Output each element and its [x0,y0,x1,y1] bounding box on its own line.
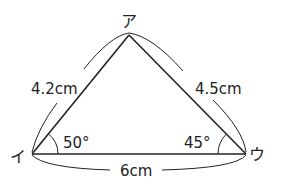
vertex-label-a: ア [121,12,137,31]
side-length-bottom: 6cm [120,162,152,180]
side-length-right: 4.5cm [195,80,242,98]
arc-bottom-right [162,155,246,170]
angle-arc-right [218,134,226,154]
angle-label-right: 45° [184,134,211,152]
arc-bottom-left [32,155,110,170]
vertex-label-i: イ [10,147,26,166]
angle-arc-left [48,134,58,154]
vertex-label-u: ウ [249,145,265,164]
arc-right-upper [129,33,183,71]
angle-label-left: 50° [63,134,90,152]
side-length-left: 4.2cm [31,80,78,98]
triangle-diagram: ア イ ウ 4.2cm 4.5cm 6cm 50° 45° [0,0,283,188]
